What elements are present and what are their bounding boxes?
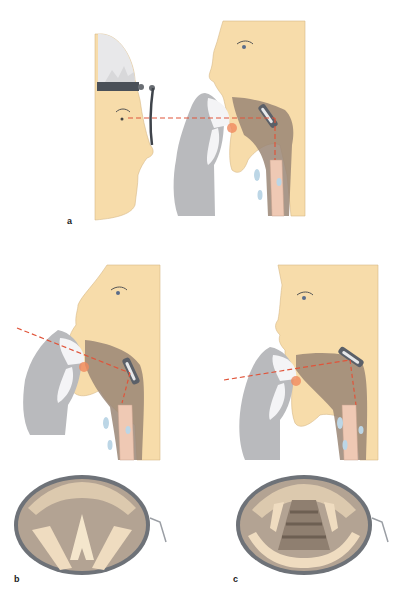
panel-c-illustration bbox=[200, 255, 395, 465]
mirror-view-b bbox=[10, 470, 170, 585]
panel-label-a: a bbox=[67, 216, 72, 226]
mirror-view-b-illustration bbox=[10, 470, 170, 585]
mirror-handle bbox=[150, 518, 166, 542]
head-mirror-icon bbox=[151, 88, 153, 145]
panel-a-illustration bbox=[0, 0, 395, 240]
cartilage bbox=[258, 190, 263, 200]
mirror-view-c bbox=[232, 470, 392, 585]
trachea bbox=[270, 160, 284, 216]
tongue-tip bbox=[227, 123, 237, 133]
tongue-tip bbox=[291, 376, 301, 386]
panel-label-c: c bbox=[233, 574, 238, 584]
trachea bbox=[118, 405, 134, 460]
trachea bbox=[342, 405, 358, 460]
tongue-tip bbox=[79, 362, 89, 372]
panel-label-b: b bbox=[14, 574, 20, 584]
panel-b-illustration bbox=[0, 255, 200, 465]
patient-pupil bbox=[116, 291, 120, 295]
cartilage bbox=[254, 169, 260, 181]
patient-pupil bbox=[242, 45, 246, 49]
head-band bbox=[97, 82, 139, 91]
patient-pupil bbox=[302, 296, 306, 300]
cartilage bbox=[277, 178, 282, 186]
mirror-handle bbox=[372, 518, 388, 542]
panel-b bbox=[0, 255, 200, 465]
mirror-view-c-illustration bbox=[232, 470, 392, 585]
panel-c bbox=[200, 255, 395, 465]
panel-a: a bbox=[0, 0, 395, 240]
